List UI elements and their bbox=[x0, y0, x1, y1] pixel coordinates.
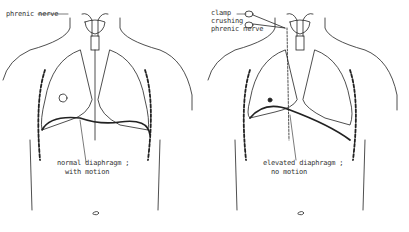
label-diaphragm-right-2: no motion bbox=[271, 169, 307, 176]
right-torso bbox=[208, 11, 397, 215]
label-clamp-1: clamp bbox=[211, 10, 231, 17]
diagram-canvas bbox=[0, 0, 409, 232]
label-clamp-2: crushing bbox=[211, 18, 243, 25]
label-clamp-3: phrenic nerve bbox=[211, 26, 263, 33]
label-diaphragm-left-1: normal diaphragm ; bbox=[57, 160, 129, 167]
label-phrenic-nerve-left: phrenic nerve bbox=[6, 11, 58, 18]
left-torso bbox=[3, 14, 192, 215]
label-diaphragm-left-2: with motion bbox=[65, 169, 109, 176]
label-diaphragm-right-1: elevated diaphragm ; bbox=[263, 160, 343, 167]
